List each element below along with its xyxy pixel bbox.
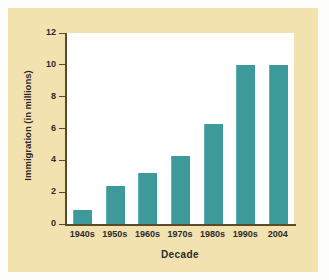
y-axis-tick <box>59 160 66 161</box>
y-axis-title: Immigration (in millions) <box>22 51 33 201</box>
bar <box>138 173 157 224</box>
y-axis-tick-label: 8 <box>32 92 56 101</box>
x-axis-line <box>65 224 296 226</box>
y-axis-tick-label-text: 0 <box>34 219 56 228</box>
bar <box>269 65 288 224</box>
y-axis-tick <box>59 33 66 34</box>
y-axis-tick <box>59 224 66 225</box>
y-axis-tick-label-text: 8 <box>34 92 56 101</box>
y-axis-tick-label: 10 <box>32 60 56 69</box>
y-axis-tick-label-text: 4 <box>34 155 56 164</box>
y-axis-tick <box>59 192 66 193</box>
bars-layer <box>66 33 294 224</box>
y-axis-tick <box>59 128 66 129</box>
x-axis-tick-label: 2004 <box>258 229 298 240</box>
x-axis-title: Decade <box>66 249 294 260</box>
bar <box>204 124 223 224</box>
bar <box>73 210 92 224</box>
bar <box>236 65 255 224</box>
y-axis-tick-label: 6 <box>32 124 56 133</box>
bar <box>106 186 125 224</box>
y-axis-tick <box>59 96 66 97</box>
y-axis-tick-label-text: 6 <box>34 124 56 133</box>
y-axis-tick-label-text: 2 <box>34 187 56 196</box>
y-axis-tick-label: 12 <box>32 28 56 37</box>
chart-figure: 024681012 1940s1950s1960s1970s1980s1990s… <box>0 0 329 280</box>
y-axis-tick-label-text: 12 <box>34 28 56 37</box>
y-axis-tick-label: 4 <box>32 155 56 164</box>
bar <box>171 156 190 224</box>
y-axis-tick <box>59 64 66 65</box>
x-axis-tick-labels: 1940s1950s1960s1970s1980s1990s2004 <box>66 229 294 243</box>
y-axis-tick-label: 2 <box>32 187 56 196</box>
y-axis-tick-label-text: 10 <box>34 60 56 69</box>
y-axis-tick-label: 0 <box>32 219 56 228</box>
